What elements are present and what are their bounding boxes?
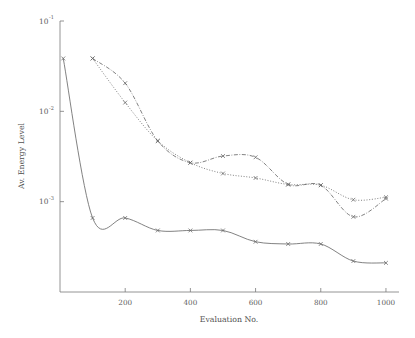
y-tick-label: 10 — [39, 197, 49, 206]
y-tick-label: 10 — [39, 107, 49, 116]
x-tick-label: 400 — [184, 298, 198, 307]
data-point-marker-series-dotted-upper — [351, 198, 355, 202]
x-tick-marks — [125, 288, 386, 292]
y-tick-label: 10 — [39, 17, 49, 26]
data-point-marker-series-dashdot-upper — [123, 81, 127, 85]
data-point-marker-series-dotted-upper — [221, 172, 225, 176]
y-tick-label-exponent: -2 — [49, 105, 54, 111]
y-tick-labels: 10-110-210-3 — [39, 14, 54, 206]
marker-group — [61, 57, 388, 265]
axes-group — [60, 21, 399, 292]
x-tick-label: 800 — [314, 298, 328, 307]
data-point-marker-series-dotted-upper — [156, 139, 160, 143]
figure-container: 10-110-210-3 2004006008001000 Evaluation… — [0, 0, 415, 338]
data-point-marker-series-solid-lower — [91, 216, 95, 220]
data-point-marker-series-dotted-upper — [254, 176, 258, 180]
y-tick-label-exponent: -1 — [49, 14, 54, 20]
y-tick-marks — [60, 21, 64, 202]
x-tick-label: 600 — [249, 298, 263, 307]
x-tick-label: 1000 — [377, 298, 396, 307]
x-tick-label: 200 — [118, 298, 132, 307]
data-point-marker-series-dotted-upper — [91, 57, 95, 61]
data-point-marker-series-dotted-upper — [319, 183, 323, 187]
data-point-marker-series-dashdot-upper — [254, 155, 258, 159]
x-tick-labels: 2004006008001000 — [118, 298, 395, 307]
x-axis-title: Evaluation No. — [200, 315, 259, 324]
data-point-marker-series-dotted-upper — [123, 101, 127, 105]
y-tick-label-exponent: -3 — [49, 195, 54, 201]
line-chart: 10-110-210-3 2004006008001000 Evaluation… — [0, 0, 415, 338]
series-line-series-dashdot-upper — [93, 58, 386, 217]
series-line-series-dotted-upper — [93, 58, 386, 200]
y-axis-title: Av. Energy Level — [17, 123, 26, 190]
